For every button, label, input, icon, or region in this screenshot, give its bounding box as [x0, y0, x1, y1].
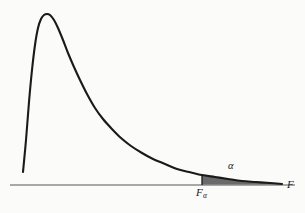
f-distribution-figure: Fα α F: [0, 0, 305, 213]
critical-value-subscript: α: [203, 191, 207, 200]
tail-area-label: α: [228, 161, 234, 172]
critical-value-label: Fα: [196, 187, 207, 198]
axis-label: F: [287, 179, 294, 190]
distribution-plot-svg: [0, 0, 305, 213]
f-density-curve: [23, 14, 282, 184]
critical-value-symbol: F: [196, 186, 203, 198]
